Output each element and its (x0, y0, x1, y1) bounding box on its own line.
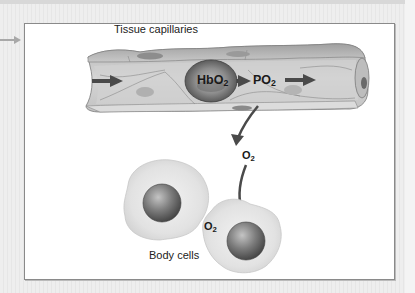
po2-label: PO2 (253, 74, 276, 88)
o2-in-cell-label: O2 (204, 221, 217, 234)
o2-released-sub: 2 (251, 154, 255, 163)
o2-released-label: O2 (242, 150, 255, 163)
figure-title: Tissue capillaries (114, 24, 198, 35)
o2-in-cell-sub: 2 (213, 225, 217, 234)
body-cells-label: Body cells (149, 250, 199, 261)
curved-arrow-down-icon (231, 106, 258, 146)
hbo2-label-main: HbO (197, 73, 223, 87)
body-cell (124, 160, 209, 240)
o2-released-main: O (242, 149, 251, 161)
o2-in-cell-main: O (204, 220, 213, 232)
capillary-diagram (0, 0, 415, 293)
hbo2-label-sub: 2 (223, 78, 228, 88)
po2-label-sub: 2 (271, 78, 276, 88)
po2-label-main: PO (253, 73, 271, 87)
body-cell (203, 199, 282, 273)
hbo2-label: HbO2 (197, 74, 228, 88)
